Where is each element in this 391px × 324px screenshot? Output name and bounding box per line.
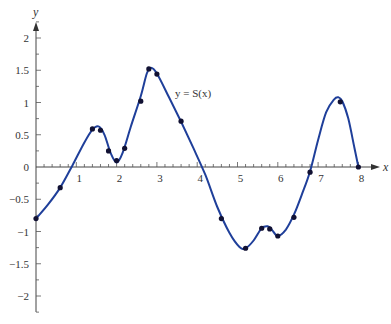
data-point bbox=[219, 216, 224, 221]
y-tick-label: −0.5 bbox=[9, 193, 29, 205]
x-tick-label: 6 bbox=[278, 172, 284, 184]
x-axis-label: x bbox=[382, 160, 389, 174]
y-axis-arrow-icon bbox=[33, 22, 39, 31]
data-point bbox=[122, 146, 127, 151]
data-point bbox=[58, 185, 63, 190]
data-point bbox=[154, 72, 159, 77]
y-tick-label: 1.5 bbox=[15, 64, 29, 76]
chart: 12345678−2−1.5−1−0.500.511.52 x y y = S(… bbox=[0, 0, 391, 324]
data-point bbox=[243, 246, 248, 251]
y-tick-label: 2 bbox=[24, 32, 30, 44]
data-point bbox=[338, 99, 343, 104]
data-point bbox=[178, 119, 183, 124]
data-point bbox=[259, 226, 264, 231]
x-tick-label: 3 bbox=[157, 172, 163, 184]
axis-ticks bbox=[36, 22, 358, 312]
y-tick-label: −2 bbox=[17, 290, 29, 302]
data-point bbox=[33, 216, 38, 221]
x-tick-label: 7 bbox=[318, 172, 324, 184]
data-point bbox=[98, 128, 103, 133]
x-tick-label: 4 bbox=[197, 172, 203, 184]
axes bbox=[33, 22, 380, 312]
data-point bbox=[356, 164, 361, 169]
data-point bbox=[90, 126, 95, 131]
data-point bbox=[138, 99, 143, 104]
data-point bbox=[307, 170, 312, 175]
x-tick-label: 5 bbox=[238, 172, 244, 184]
x-tick-label: 8 bbox=[359, 172, 365, 184]
data-point bbox=[106, 148, 111, 153]
curve-label: y = S(x) bbox=[175, 87, 211, 100]
data-point bbox=[291, 215, 296, 220]
y-tick-label: 1 bbox=[24, 97, 30, 109]
y-tick-label: 0.5 bbox=[15, 129, 29, 141]
y-axis-label: y bbox=[32, 5, 39, 19]
y-tick-label: −1.5 bbox=[9, 258, 29, 270]
x-tick-label: 2 bbox=[117, 172, 123, 184]
data-point bbox=[267, 226, 272, 231]
x-tick-label: 1 bbox=[77, 172, 83, 184]
x-axis-arrow-icon bbox=[371, 164, 380, 170]
y-tick-label: −1 bbox=[17, 226, 29, 238]
y-tick-label: 0 bbox=[24, 161, 30, 173]
data-point bbox=[275, 233, 280, 238]
data-point bbox=[146, 66, 151, 71]
data-point bbox=[114, 158, 119, 163]
